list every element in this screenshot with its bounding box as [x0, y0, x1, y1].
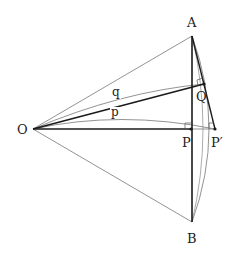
label-P: P — [182, 135, 191, 150]
point-P — [189, 127, 192, 130]
label-B: B — [187, 231, 197, 246]
label-q: q — [112, 85, 120, 99]
label-A: A — [186, 15, 197, 30]
label-Pprime: P′ — [211, 135, 223, 150]
label-p: p — [111, 105, 119, 119]
label-O: O — [17, 122, 28, 137]
arc-p — [33, 120, 215, 130]
geometry-diagram: O A B P P′ Q p q — [0, 0, 247, 258]
point-Q — [202, 82, 205, 85]
segment-OB — [33, 129, 192, 222]
label-Q: Q — [196, 89, 207, 104]
point-Pprime — [213, 127, 216, 130]
